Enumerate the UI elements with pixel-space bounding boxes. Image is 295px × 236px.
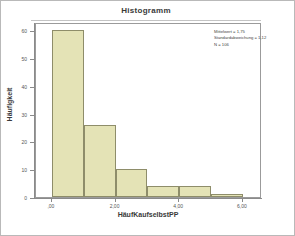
histogram-bar [116, 169, 148, 197]
x-tick-label: 2,00 [100, 203, 130, 209]
y-tick-mark [30, 87, 34, 88]
x-tick-mark [242, 198, 243, 202]
y-tick-label: 60 [5, 28, 27, 34]
y-tick-mark [30, 198, 34, 199]
y-tick-mark [30, 59, 34, 60]
y-tick-label: 20 [5, 139, 27, 145]
y-tick-mark [30, 142, 34, 143]
histogram-bar [179, 186, 211, 197]
stat-n: N = 106 [214, 42, 266, 48]
y-tick-mark [30, 170, 34, 171]
x-axis-title: HäufKaufselbstPP [35, 211, 261, 218]
x-tick-mark [51, 198, 52, 202]
y-axis-title: Häufigkeit [6, 75, 13, 135]
plot-area [36, 24, 260, 197]
x-axis-line [34, 198, 262, 199]
y-axis-line [34, 23, 35, 199]
histogram-bar [84, 125, 116, 197]
y-tick-label: 50 [5, 56, 27, 62]
histogram-bar [147, 186, 179, 197]
y-tick-mark [30, 115, 34, 116]
histogram-bar [52, 30, 84, 197]
stat-sd: Standardabweichung = 1,12 [214, 35, 266, 41]
y-tick-label: 0 [5, 195, 27, 201]
y-tick-label: 10 [5, 167, 27, 173]
x-tick-label: 6,00 [227, 203, 257, 209]
y-tick-mark [30, 31, 34, 32]
x-tick-label: 4,00 [163, 203, 193, 209]
chart-title: Histogramm [31, 6, 261, 15]
plot-frame [35, 23, 261, 198]
x-tick-mark [178, 198, 179, 202]
title-divider [31, 20, 261, 21]
histogram-chart: Histogramm 0102030405060 ,002,004,006,00… [0, 0, 295, 236]
statistics-annotation: Mittelwert = 1,75 Standardabweichung = 1… [214, 29, 266, 48]
x-tick-mark [115, 198, 116, 202]
histogram-bar [211, 194, 243, 197]
x-tick-label: ,00 [36, 203, 66, 209]
